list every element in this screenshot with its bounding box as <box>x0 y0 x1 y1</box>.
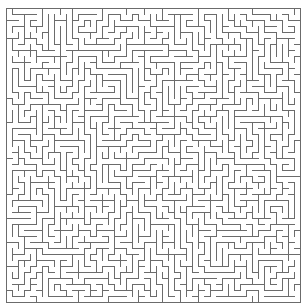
maze-grid <box>0 0 308 306</box>
maze-canvas <box>0 0 308 306</box>
